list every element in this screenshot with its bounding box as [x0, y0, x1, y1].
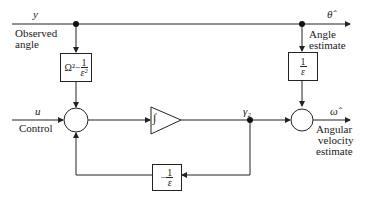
feedback-return: [76, 133, 152, 175]
input-y-symbol: y: [33, 9, 38, 20]
junction-dot-y: [73, 21, 79, 27]
sum-junction-right: [291, 109, 313, 131]
junction-dot-theta: [299, 21, 305, 27]
output-theta-symbol: θ̂: [327, 9, 332, 20]
sum-junction-left: [64, 108, 88, 132]
input-u-symbol: u: [35, 106, 41, 117]
gain-block-right: 1 ε: [288, 52, 318, 81]
gain-right-fraction: 1 ε: [300, 57, 307, 76]
gain-left-prefix: Ω²−: [64, 62, 80, 73]
integral-symbol: ∫: [153, 113, 156, 124]
feedback-gain-block: − 1 ε: [152, 164, 182, 191]
gain-left-fraction: 1 ε²: [81, 58, 88, 77]
input-y-label-2: angle: [15, 39, 39, 50]
gain-block-left: Ω²− 1 ε²: [60, 53, 92, 82]
junction-dot-gamma2: [247, 117, 253, 123]
output-theta-label-2: estimate: [309, 40, 346, 51]
feedback-fraction: 1 ε: [166, 168, 173, 187]
output-omega-label-3: estimate: [316, 146, 353, 157]
output-omega-symbol: ω̂: [330, 106, 338, 117]
gamma2-label: γ₂: [243, 106, 251, 117]
feedback-path: [182, 120, 250, 175]
input-u-label: Control: [19, 123, 53, 134]
